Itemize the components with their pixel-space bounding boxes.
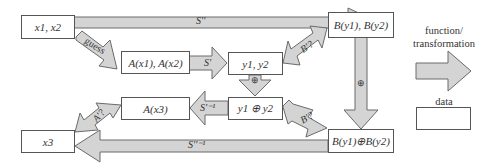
node-x3: x3 [21, 130, 75, 153]
legend-function-label: function/ transformation [404, 24, 484, 50]
node-y1-y2: y1, y2 [228, 52, 283, 75]
node-ax1-ax2: A(x1), A(x2) [121, 51, 190, 74]
legend-arrow [416, 51, 471, 91]
node-x1-x2: x1, x2 [21, 15, 75, 39]
label-xor-big: ⊕ [357, 78, 365, 88]
node-ax3: A(x3) [121, 97, 190, 120]
node-y1-xor-y2: y1 ⊕ y2 [228, 97, 283, 120]
node-by1-xor-by2: B(y1)⊕B(y2) [328, 129, 394, 153]
label-s-double: S'' [196, 15, 205, 26]
label-s-double-inv: S''⁻¹ [188, 139, 205, 150]
legend-data-box [416, 107, 471, 130]
label-s-prime: S' [204, 57, 211, 68]
label-xor-small: ⊕ [251, 75, 259, 85]
node-by1-by2: B(y1), B(y2) [328, 12, 394, 38]
label-s-prime-inv: S'⁻¹ [200, 102, 215, 113]
